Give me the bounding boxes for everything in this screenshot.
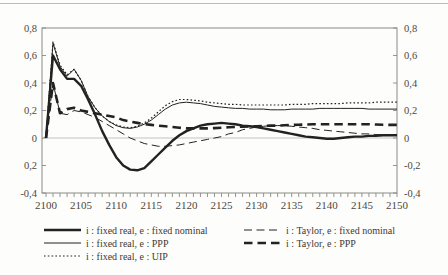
- y-axis-label-right: 0,2: [404, 105, 417, 116]
- y-axis-label-right: 0,6: [404, 50, 417, 61]
- y-axis-label-left: 0: [32, 133, 37, 144]
- x-axis-label: 2100: [35, 199, 58, 211]
- plot-frame: [42, 28, 397, 193]
- y-axis-label-left: -0,4: [20, 188, 37, 199]
- x-axis-label: 2125: [211, 199, 234, 211]
- legend-item: i : fixed real, e : fixed nominal: [44, 225, 208, 236]
- legend-item: i : Taylor, e : fixed nominal: [244, 225, 395, 236]
- x-axis-label: 2130: [246, 199, 269, 211]
- y-axis-label-right: -0,4: [404, 188, 421, 199]
- x-axis-label: 2145: [351, 199, 374, 211]
- line-chart: 0,80,80,60,60,40,40,20,2000,2-0,2-0,4-0,…: [0, 0, 448, 275]
- y-axis-label-left: 0,6: [24, 50, 37, 61]
- x-axis-label: 2140: [316, 199, 339, 211]
- y-axis-label-right: 0: [404, 133, 409, 144]
- x-axis-label: 2120: [175, 199, 198, 211]
- y-axis-label-left: 0,2: [24, 160, 37, 171]
- legend-label: i : Taylor, e : PPP: [286, 238, 356, 249]
- scanned-figure: 0,80,80,60,60,40,40,20,2000,2-0,2-0,4-0,…: [0, 0, 448, 275]
- x-axis-label: 2110: [105, 199, 127, 211]
- legend-label: i : Taylor, e : fixed nominal: [286, 225, 395, 236]
- legend-label: i : fixed real, e : UIP: [86, 251, 168, 262]
- y-axis-label-left: 0,2: [24, 105, 37, 116]
- legend-item: i : Taylor, e : PPP: [244, 238, 356, 249]
- y-axis-label-right: 0,8: [404, 23, 417, 34]
- x-axis-label: 2115: [141, 199, 163, 211]
- y-axis-label-left: 0,4: [24, 78, 38, 89]
- series-dashed-thick: [46, 83, 397, 138]
- x-axis-label: 2150: [386, 199, 409, 211]
- y-axis-label-right: 0,4: [404, 78, 418, 89]
- legend-item: i : fixed real, e : PPP: [44, 238, 169, 249]
- y-axis-label-right: -0,2: [404, 160, 421, 171]
- legend-item: i : fixed real, e : UIP: [44, 251, 168, 262]
- legend-label: i : fixed real, e : PPP: [86, 238, 169, 249]
- x-axis-label: 2105: [70, 199, 93, 211]
- legend-label: i : fixed real, e : fixed nominal: [86, 225, 208, 236]
- y-axis-label-left: 0,8: [24, 23, 37, 34]
- x-axis-label: 2135: [281, 199, 304, 211]
